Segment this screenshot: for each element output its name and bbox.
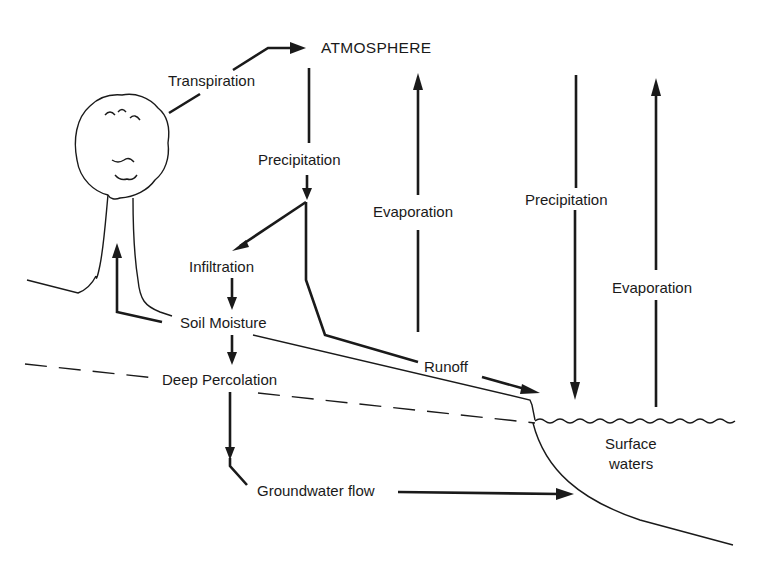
label-infiltration: Infiltration [189, 258, 254, 275]
label-precipitation-water: Precipitation [525, 191, 608, 208]
label-runoff: Runoff [424, 358, 469, 375]
ground-surface [27, 276, 535, 420]
label-atmosphere: ATMOSPHERE [321, 39, 431, 56]
label-soil-moisture: Soil Moisture [180, 314, 267, 331]
label-groundwater-flow: Groundwater flow [257, 482, 375, 499]
infiltration-arrow [240, 202, 306, 246]
water-table-line-right [258, 393, 535, 423]
runoff-arrow [482, 377, 525, 389]
arrowhead [112, 243, 122, 258]
water-table-line [25, 364, 155, 378]
label-surface-waters-1: Surface [605, 435, 657, 452]
hydrologic-cycle-diagram: ATMOSPHERE Transpiration Precipitation E… [0, 0, 759, 569]
label-deep-percolation: Deep Percolation [162, 371, 277, 388]
tree-icon [75, 94, 168, 280]
label-evaporation-land: Evaporation [373, 203, 453, 220]
label-transpiration: Transpiration [168, 72, 255, 89]
label-evaporation-water: Evaporation [612, 279, 692, 296]
label-surface-waters-2: waters [608, 455, 653, 472]
label-precipitation-land: Precipitation [258, 151, 341, 168]
transpiration-arrow [169, 94, 200, 113]
groundwater-flow-arrow [398, 492, 560, 494]
water-surface-wave [535, 419, 735, 423]
